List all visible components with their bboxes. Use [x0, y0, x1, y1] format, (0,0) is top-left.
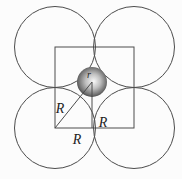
label-R-vertical-leg: R	[98, 115, 108, 130]
label-r-void-sphere: r	[87, 69, 91, 80]
label-R-hypotenuse: R	[55, 101, 65, 116]
label-R-horizontal-leg: R	[72, 132, 82, 147]
diagram-canvas: R R R r	[0, 0, 182, 179]
packing-diagram-figure: R R R r	[0, 0, 182, 179]
